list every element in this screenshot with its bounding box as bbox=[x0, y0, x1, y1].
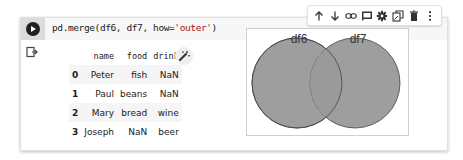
row-index: 0 bbox=[69, 65, 81, 84]
index-header bbox=[69, 47, 81, 65]
cell-name: Joseph bbox=[81, 122, 117, 141]
venn-diagram-plot: df6 df7 bbox=[246, 28, 409, 136]
output-arrow-icon[interactable] bbox=[26, 46, 38, 58]
notebook-cell[interactable]: pd.merge(df6, df7, how='outer') name foo… bbox=[20, 17, 448, 151]
cell-food: NaN bbox=[117, 122, 150, 141]
cell-food: beans bbox=[117, 84, 150, 103]
link-icon[interactable] bbox=[344, 9, 358, 23]
table-row: 3 Joseph NaN beer bbox=[69, 122, 182, 141]
comment-icon[interactable] bbox=[360, 9, 374, 23]
code-string: 'outer' bbox=[174, 22, 211, 33]
row-index: 2 bbox=[69, 103, 81, 122]
code-prefix: pd.merge(df6, df7, how= bbox=[52, 22, 174, 33]
cell-toolbar bbox=[307, 5, 442, 26]
cell-name: Paul bbox=[81, 84, 117, 103]
arrow-up-icon[interactable] bbox=[312, 9, 326, 23]
table-row: 1 Paul beans NaN bbox=[69, 84, 182, 103]
row-index: 3 bbox=[69, 122, 81, 141]
run-cell-button[interactable] bbox=[26, 22, 40, 36]
code-suffix: ) bbox=[212, 22, 217, 33]
table-row: 0 Peter fish NaN bbox=[69, 65, 182, 84]
mirror-cell-icon[interactable] bbox=[391, 9, 405, 23]
more-vert-icon[interactable] bbox=[423, 9, 437, 23]
cell-gutter bbox=[21, 18, 45, 40]
cell-drink: NaN bbox=[150, 84, 182, 103]
cell-drink: beer bbox=[150, 122, 182, 141]
table-row: 2 Mary bread wine bbox=[69, 103, 182, 122]
row-index: 1 bbox=[69, 84, 81, 103]
column-header: name bbox=[81, 47, 117, 65]
arrow-down-icon[interactable] bbox=[328, 9, 342, 23]
cell-food: fish bbox=[117, 65, 150, 84]
magic-wand-icon bbox=[178, 50, 190, 62]
cell-food: bread bbox=[117, 103, 150, 122]
cell-drink: NaN bbox=[150, 65, 182, 84]
column-header: food bbox=[117, 47, 150, 65]
venn-label-right: df7 bbox=[350, 32, 367, 46]
cell-name: Peter bbox=[81, 65, 117, 84]
code-line[interactable]: pd.merge(df6, df7, how='outer') bbox=[52, 22, 217, 33]
gear-icon[interactable] bbox=[375, 9, 389, 23]
cell-name: Mary bbox=[81, 103, 117, 122]
table-header-row: name food drink bbox=[69, 47, 182, 65]
cell-drink: wine bbox=[150, 103, 182, 122]
suggest-chart-button[interactable] bbox=[175, 47, 193, 65]
dataframe-table: name food drink 0 Peter fish NaN 1 Paul … bbox=[69, 47, 182, 141]
venn-label-left: df6 bbox=[291, 32, 308, 46]
trash-icon[interactable] bbox=[407, 9, 421, 23]
